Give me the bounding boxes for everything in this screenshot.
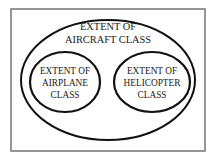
helicopter-class-label-line3: CLASS bbox=[138, 90, 167, 100]
helicopter-class-label-line2: HELICOPTER bbox=[124, 78, 182, 88]
airplane-class-label-line1: EXTENT OF bbox=[40, 66, 90, 76]
helicopter-class-label-line1: EXTENT OF bbox=[127, 66, 177, 76]
aircraft-class-label-line1: EXTENT OF bbox=[80, 21, 136, 32]
airplane-class-label-line3: CLASS bbox=[51, 90, 80, 100]
set-diagram-svg: EXTENT OF AIRCRAFT CLASS EXTENT OF AIRPL… bbox=[0, 0, 217, 161]
aircraft-class-label-line2: AIRCRAFT CLASS bbox=[65, 34, 151, 45]
diagram-canvas: EXTENT OF AIRCRAFT CLASS EXTENT OF AIRPL… bbox=[0, 0, 217, 161]
airplane-class-label-line2: AIRPLANE bbox=[42, 78, 88, 88]
